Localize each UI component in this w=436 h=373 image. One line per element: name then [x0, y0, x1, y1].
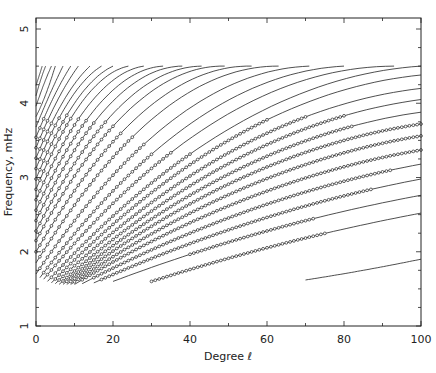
observed-point: [104, 134, 107, 137]
observed-point: [100, 125, 103, 128]
observed-point: [173, 248, 176, 251]
observed-point: [158, 254, 161, 257]
observed-point: [304, 219, 307, 222]
observed-point: [146, 220, 149, 223]
observed-point: [177, 201, 180, 204]
observed-point: [131, 257, 134, 260]
observed-point: [173, 174, 176, 177]
observed-point: [177, 272, 180, 275]
observed-point: [166, 199, 169, 202]
observed-point: [127, 201, 130, 204]
observed-point: [323, 157, 326, 160]
observed-point: [65, 161, 68, 164]
observed-point: [189, 232, 192, 235]
observed-point: [119, 232, 122, 235]
observed-point: [304, 237, 307, 240]
observed-point: [135, 150, 138, 153]
observed-point: [115, 228, 118, 231]
observed-point: [77, 266, 80, 269]
observed-point: [308, 138, 311, 141]
observed-point: [150, 191, 153, 194]
observed-point: [200, 206, 203, 209]
observed-point: [62, 168, 65, 171]
observed-point: [258, 218, 261, 221]
observed-point: [89, 225, 92, 228]
observed-point: [281, 225, 284, 228]
observed-point: [50, 261, 53, 264]
observed-point: [39, 255, 42, 258]
observed-point: [246, 128, 249, 131]
tick-label: 0: [33, 333, 40, 346]
observed-point: [304, 140, 307, 143]
observed-point: [373, 172, 376, 175]
observed-point: [62, 206, 65, 209]
observed-point: [127, 174, 130, 177]
observed-point: [235, 135, 238, 138]
observed-point: [127, 252, 130, 255]
observed-point: [212, 201, 215, 204]
observed-point: [69, 155, 72, 158]
observed-point: [142, 237, 145, 240]
observed-point: [115, 247, 118, 250]
observed-point: [92, 196, 95, 199]
observed-point: [135, 180, 138, 183]
observed-point: [312, 174, 315, 177]
observed-point: [223, 218, 226, 221]
observed-point: [177, 247, 180, 250]
observed-point: [135, 248, 138, 251]
ridge-curve: [152, 213, 422, 281]
observed-point: [243, 143, 246, 146]
observed-point: [219, 243, 222, 246]
observed-point: [246, 235, 249, 238]
observed-point: [366, 145, 369, 148]
observed-point: [162, 234, 165, 237]
observed-point: [42, 192, 45, 195]
observed-point: [104, 210, 107, 213]
observed-point: [73, 162, 76, 165]
observed-point: [92, 148, 95, 151]
observed-point: [266, 230, 269, 233]
observed-point: [73, 175, 76, 178]
observed-point: [50, 189, 53, 192]
tick-label: 100: [411, 333, 432, 346]
observed-point: [96, 265, 99, 268]
observed-point: [293, 222, 296, 225]
observed-point: [39, 127, 42, 130]
observed-point: [173, 194, 176, 197]
observed-point: [154, 238, 157, 241]
observed-point: [119, 251, 122, 254]
observed-point: [96, 256, 99, 259]
observed-point: [362, 175, 365, 178]
observed-point: [139, 191, 142, 194]
observed-point: [92, 247, 95, 250]
observed-point: [273, 187, 276, 190]
observed-point: [208, 173, 211, 176]
observed-point: [69, 268, 72, 271]
observed-point: [239, 254, 242, 257]
observed-point: [331, 155, 334, 158]
observed-point: [312, 235, 315, 238]
observed-point: [231, 227, 234, 230]
observed-point: [162, 243, 165, 246]
observed-point: [219, 259, 222, 262]
observed-point: [104, 276, 107, 279]
observed-point: [200, 167, 203, 170]
observed-point: [77, 255, 80, 258]
observed-point: [343, 195, 346, 198]
observed-point: [281, 242, 284, 245]
observed-point: [77, 118, 80, 121]
tick-label: 4: [18, 100, 31, 107]
observed-point: [85, 205, 88, 208]
observed-point: [100, 253, 103, 256]
observed-point: [204, 185, 207, 188]
observed-point: [65, 124, 68, 127]
observed-point: [185, 196, 188, 199]
observed-point: [89, 153, 92, 156]
observed-point: [196, 189, 199, 192]
observed-point: [289, 157, 292, 160]
observed-point: [169, 240, 172, 243]
observed-point: [69, 209, 72, 212]
observed-point: [350, 137, 353, 140]
observed-point: [69, 168, 72, 171]
observed-point: [347, 179, 350, 182]
